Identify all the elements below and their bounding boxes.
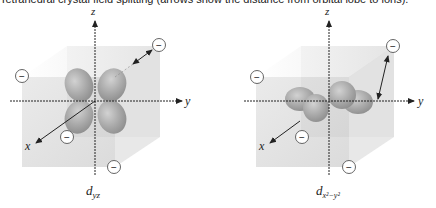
svg-text:−: − [156, 40, 162, 51]
x-axis-label: x [24, 139, 31, 153]
svg-text:−: − [390, 41, 396, 52]
svg-text:−: − [64, 132, 70, 143]
panel-dyz: z y x − − − − dyz [10, 5, 191, 200]
svg-text:−: − [299, 132, 305, 143]
ion-top-right: − [153, 39, 166, 52]
z-axis-label: z [324, 5, 330, 17]
panel-dx2y2: z y x − − − − dx²−y² [244, 5, 424, 200]
ion-bottom-right: − [343, 161, 356, 174]
ion-front-bottom: − [296, 131, 309, 144]
y-axis-label: y [184, 94, 191, 108]
ion-bottom-right: − [108, 161, 121, 174]
orbital-label-dyz: dyz [86, 183, 100, 200]
z-axis-label: z [90, 5, 96, 17]
ion-top-left: − [16, 70, 29, 83]
svg-text:−: − [254, 72, 260, 83]
x-axis-label: x [258, 139, 265, 153]
svg-text:−: − [346, 162, 352, 173]
ion-front-bottom: − [61, 131, 74, 144]
svg-text:−: − [19, 71, 25, 82]
crystal-field-diagram: z y x − − − − dyz [0, 0, 436, 208]
svg-text:−: − [111, 162, 117, 173]
ion-top-right: − [387, 40, 400, 53]
y-axis-label: y [417, 94, 424, 108]
orbital-label-dx2y2: dx²−y² [316, 183, 340, 200]
ion-top-left: − [251, 71, 264, 84]
